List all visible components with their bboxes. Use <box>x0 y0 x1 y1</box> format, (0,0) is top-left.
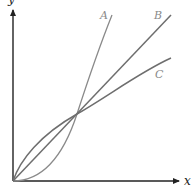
y-axis-label: y <box>7 0 15 6</box>
curve-a-label: A <box>99 9 108 22</box>
curve-b-label: B <box>153 9 162 22</box>
curve-c-label: C <box>155 68 164 81</box>
curve-b <box>13 15 171 181</box>
curve-c <box>13 58 171 181</box>
diagram-canvas: A B C x y <box>0 0 192 194</box>
x-axis-label: x <box>184 174 191 188</box>
curve-a <box>13 15 112 181</box>
